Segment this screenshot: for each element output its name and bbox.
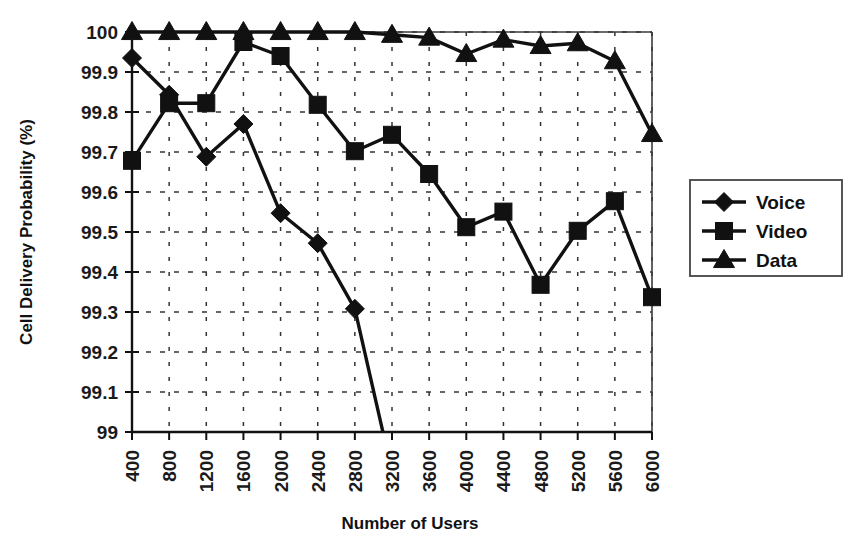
series-line-voice [132, 58, 392, 472]
legend-item-label: Video [756, 221, 807, 242]
x-axis-tick-label: 1200 [196, 450, 217, 492]
legend-item-label: Voice [756, 192, 805, 213]
x-axis-tick-label: 5600 [605, 450, 626, 492]
y-axis-tick-label: 99 [97, 422, 118, 443]
data-point-marker-square [532, 276, 549, 293]
data-point-marker-square [495, 203, 512, 220]
data-point-marker-square [272, 48, 289, 65]
data-point-marker-triangle [642, 124, 663, 142]
data-point-marker-square [384, 126, 401, 143]
chart-figure: 9999.199.299.399.499.599.699.799.899.910… [0, 0, 855, 546]
x-axis-ticks [132, 432, 652, 440]
y-axis-tick-label: 100 [86, 22, 118, 43]
x-axis-tick-label: 400 [122, 450, 143, 482]
x-axis-tick-label: 2000 [271, 450, 292, 492]
data-point-marker-triangle [567, 33, 588, 51]
y-axis-title: Cell Delivery Probability (%) [17, 119, 36, 345]
y-axis-tick-label: 99.3 [81, 302, 118, 323]
y-axis-tick-label: 99.7 [81, 142, 118, 163]
x-axis-tick-label: 800 [159, 450, 180, 482]
y-axis-tick-label: 99.6 [81, 182, 118, 203]
x-axis-tick-label: 4000 [456, 450, 477, 492]
data-point-marker-triangle [604, 51, 625, 69]
data-point-marker-square [644, 289, 661, 306]
data-point-marker-diamond [345, 299, 364, 318]
data-point-marker-square [198, 95, 215, 112]
data-point-marker-square [606, 193, 623, 210]
y-axis-tick-labels: 9999.199.299.399.499.599.699.799.899.910… [81, 22, 118, 443]
data-point-marker-square [458, 219, 475, 236]
x-axis-tick-label: 4400 [493, 450, 514, 492]
x-axis-tick-label: 4800 [531, 450, 552, 492]
data-point-marker-square [346, 143, 363, 160]
x-axis-title: Number of Users [342, 514, 479, 533]
y-axis-tick-label: 99.1 [81, 382, 118, 403]
x-axis-tick-label: 1600 [233, 450, 254, 492]
x-axis-tick-label: 6000 [642, 450, 663, 492]
x-axis-tick-label: 3200 [382, 450, 403, 492]
legend-item-label: Data [756, 250, 798, 271]
x-axis-tick-labels: 4008001200160020002400280032003600400044… [122, 450, 663, 492]
x-axis-tick-label: 2400 [308, 450, 329, 492]
x-axis-tick-label: 5200 [568, 450, 589, 492]
data-point-marker-square [569, 222, 586, 239]
y-axis-tick-label: 99.4 [81, 262, 118, 283]
y-axis-tick-label: 99.5 [81, 222, 118, 243]
data-point-marker-square [161, 95, 178, 112]
data-point-marker-square [309, 96, 326, 113]
y-axis-tick-label: 99.2 [81, 342, 118, 363]
y-axis-tick-label: 99.9 [81, 62, 118, 83]
x-axis-tick-label: 3600 [419, 450, 440, 492]
cell-delivery-probability-line-chart: 9999.199.299.399.499.599.699.799.899.910… [0, 0, 855, 546]
data-series-layer [122, 22, 663, 473]
chart-legend: VoiceVideoData [690, 180, 842, 276]
y-axis-tick-label: 99.8 [81, 102, 118, 123]
data-point-marker-square [124, 152, 141, 169]
data-point-marker-square [716, 223, 733, 240]
x-axis-tick-label: 2800 [345, 450, 366, 492]
data-point-marker-square [421, 166, 438, 183]
